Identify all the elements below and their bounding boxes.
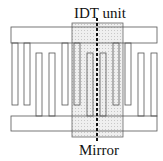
mirror-label: Mirror	[79, 143, 119, 158]
idt-unit-label: IDT unit	[74, 6, 126, 21]
top-electrode-fingers	[12, 43, 131, 105]
idt-diagram	[0, 0, 163, 161]
